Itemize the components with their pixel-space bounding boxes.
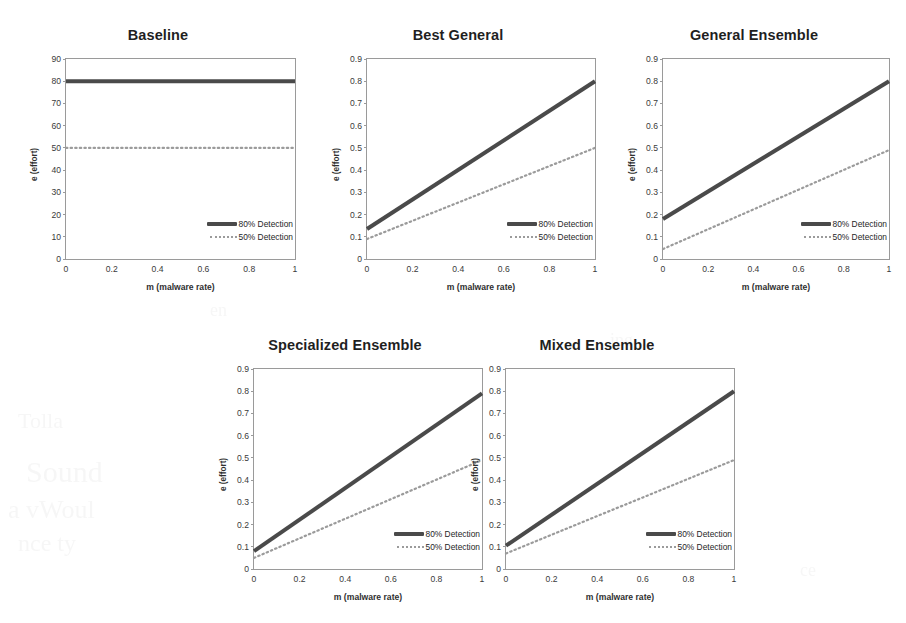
y-axis-tick: 0.4 xyxy=(489,476,506,485)
x-axis-tick: 0.2 xyxy=(546,569,558,584)
y-axis-label: e (effort) xyxy=(30,135,39,195)
y-axis-tick: 0.6 xyxy=(350,121,367,130)
legend-item[interactable]: 80% Detection xyxy=(207,217,293,230)
x-axis-tick: 1 xyxy=(887,259,892,274)
chart-title: Best General xyxy=(308,26,608,44)
legend-item[interactable]: 80% Detection xyxy=(801,217,887,230)
x-axis-tick: 0.2 xyxy=(407,259,419,274)
chart-title: General Ensemble xyxy=(604,26,904,44)
y-axis-label: e (effort) xyxy=(471,445,480,505)
y-axis-tick: 0.8 xyxy=(489,387,506,396)
chart-legend: 80% Detection50% Detection xyxy=(207,217,293,243)
x-axis-tick: 0.8 xyxy=(243,259,255,274)
legend-dotted-line-icon xyxy=(507,232,537,242)
legend-solid-line-icon xyxy=(646,529,676,539)
y-axis-tick: 10 xyxy=(51,232,66,241)
y-axis-tick: 0.1 xyxy=(646,232,663,241)
plot-frame: 00.10.20.30.40.50.60.70.80.900.20.40.60.… xyxy=(662,58,890,260)
scan-artifact: Tolla xyxy=(18,408,63,434)
y-axis-tick: 0.6 xyxy=(646,121,663,130)
legend-item[interactable]: 50% Detection xyxy=(507,230,593,243)
y-axis-tick: 0.7 xyxy=(350,99,367,108)
x-axis-tick: 0.8 xyxy=(838,259,850,274)
y-axis-tick: 0.5 xyxy=(350,143,367,152)
x-axis-tick: 0.6 xyxy=(385,569,397,584)
legend-solid-line-icon xyxy=(507,219,537,229)
x-axis-tick: 0.6 xyxy=(197,259,209,274)
chart-panel-general-ensemble: General Ensemble e (effort) 00.10.20.30.… xyxy=(604,26,904,311)
y-axis-tick: 0.6 xyxy=(489,431,506,440)
x-axis-tick: 1 xyxy=(293,259,298,274)
legend-label: 50% Detection xyxy=(833,232,887,242)
x-axis-label: m (malware rate) xyxy=(65,282,296,292)
y-axis-tick: 20 xyxy=(51,210,66,219)
y-axis-tick: 0.7 xyxy=(489,409,506,418)
y-axis-tick: 0.7 xyxy=(646,99,663,108)
legend-item[interactable]: 80% Detection xyxy=(646,527,732,540)
plot-frame: 010203040506070809000.20.40.60.8180% Det… xyxy=(65,58,296,260)
x-axis-tick: 0.4 xyxy=(339,569,351,584)
x-axis-tick: 0.4 xyxy=(452,259,464,274)
x-axis-tick: 0.2 xyxy=(702,259,714,274)
y-axis-tick: 0.3 xyxy=(237,498,254,507)
y-axis-tick: 0.9 xyxy=(237,365,254,374)
y-axis-tick: 0.9 xyxy=(350,55,367,64)
scan-artifact: Sound xyxy=(26,455,103,489)
legend-item[interactable]: 50% Detection xyxy=(207,230,293,243)
legend-item[interactable]: 80% Detection xyxy=(507,217,593,230)
y-axis-tick: 80 xyxy=(51,77,66,86)
x-axis-tick: 0 xyxy=(252,569,257,584)
x-axis-tick: 0.8 xyxy=(682,569,694,584)
y-axis-tick: 0.9 xyxy=(489,365,506,374)
legend-dotted-line-icon xyxy=(207,232,237,242)
x-axis-tick: 0.4 xyxy=(591,569,603,584)
legend-dotted-line-icon xyxy=(394,542,424,552)
chart-title: Mixed Ensemble xyxy=(447,336,747,354)
y-axis-tick: 0.2 xyxy=(237,520,254,529)
y-axis-tick: 0.8 xyxy=(646,77,663,86)
series-line-80 xyxy=(367,81,595,229)
scan-artifact: ce xyxy=(800,560,816,581)
y-axis-tick: 0.6 xyxy=(237,431,254,440)
y-axis-tick: 0.8 xyxy=(237,387,254,396)
y-axis-tick: 0.1 xyxy=(350,232,367,241)
y-axis-tick: 0.9 xyxy=(646,55,663,64)
y-axis-tick: 70 xyxy=(51,99,66,108)
y-axis-label: e (effort) xyxy=(332,135,341,195)
y-axis-tick: 0.5 xyxy=(489,453,506,462)
y-axis-tick: 0.1 xyxy=(489,542,506,551)
legend-item[interactable]: 50% Detection xyxy=(646,540,732,553)
legend-label: 80% Detection xyxy=(239,219,293,229)
legend-label: 80% Detection xyxy=(539,219,593,229)
y-axis-tick: 0.3 xyxy=(489,498,506,507)
x-axis-tick: 0.6 xyxy=(793,259,805,274)
x-axis-tick: 0.6 xyxy=(498,259,510,274)
y-axis-tick: 0.8 xyxy=(350,77,367,86)
legend-item[interactable]: 50% Detection xyxy=(801,230,887,243)
legend-solid-line-icon xyxy=(394,529,424,539)
x-axis-tick: 0.2 xyxy=(294,569,306,584)
x-axis-tick: 1 xyxy=(732,569,737,584)
chart-legend: 80% Detection50% Detection xyxy=(507,217,593,243)
scan-artifact: nce ty xyxy=(18,530,76,557)
x-axis-tick: 0.2 xyxy=(106,259,118,274)
y-axis-tick: 0.4 xyxy=(237,476,254,485)
legend-solid-line-icon xyxy=(801,219,831,229)
chart-area: e (effort) 00.10.20.30.40.50.60.70.80.90… xyxy=(604,50,904,300)
y-axis-tick: 60 xyxy=(51,121,66,130)
y-axis-tick: 0.2 xyxy=(350,210,367,219)
x-axis-tick: 1 xyxy=(593,259,598,274)
y-axis-tick: 0.2 xyxy=(489,520,506,529)
y-axis-tick: 0.5 xyxy=(237,453,254,462)
y-axis-tick: 0.4 xyxy=(646,166,663,175)
legend-label: 80% Detection xyxy=(833,219,887,229)
y-axis-tick: 0.3 xyxy=(646,188,663,197)
legend-label: 80% Detection xyxy=(678,529,732,539)
series-line-80 xyxy=(663,81,889,219)
chart-title: Baseline xyxy=(8,26,308,44)
series-line-80 xyxy=(506,391,734,545)
chart-legend: 80% Detection50% Detection xyxy=(801,217,887,243)
y-axis-label: e (effort) xyxy=(219,445,228,505)
legend-label: 50% Detection xyxy=(539,232,593,242)
plot-frame: 00.10.20.30.40.50.60.70.80.900.20.40.60.… xyxy=(366,58,596,260)
